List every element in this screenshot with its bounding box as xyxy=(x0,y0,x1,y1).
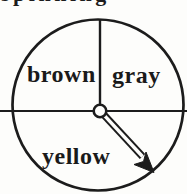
section-label-yellow: yellow xyxy=(42,144,110,168)
spinner-hub xyxy=(94,105,107,118)
section-label-brown: brown xyxy=(27,62,96,86)
spinner-arrow xyxy=(104,115,154,172)
section-label-gray: gray xyxy=(112,63,161,87)
spinner-figure: spinning brown gray yellow xyxy=(0,0,187,194)
